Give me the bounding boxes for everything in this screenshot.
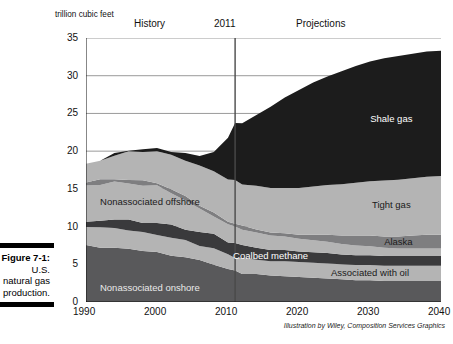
plot-area	[86, 38, 441, 302]
area-chart: trillion cubic feet History 2011 Project…	[0, 0, 453, 344]
y-tick-label-10: 10	[52, 221, 78, 232]
y-tick-label-30: 30	[52, 70, 78, 81]
y-tick-label-5: 5	[52, 258, 78, 269]
x-tick-label-1990: 1990	[73, 306, 95, 317]
y-axis-title: trillion cubic feet	[55, 10, 114, 19]
x-tick-label-2010: 2010	[215, 306, 237, 317]
annotation-history: History	[134, 18, 165, 29]
x-tick-label-2040: 2040	[428, 306, 450, 317]
y-tick-label-15: 15	[52, 183, 78, 194]
illustration-credit: Illustration by Wiley, Composition Servi…	[284, 322, 445, 329]
x-tick-label-2020: 2020	[286, 306, 308, 317]
y-tick-label-25: 25	[52, 107, 78, 118]
annotation-2011: 2011	[214, 18, 236, 29]
annotation-projections: Projections	[296, 18, 345, 29]
y-tick-label-35: 35	[52, 32, 78, 43]
y-tick-label-20: 20	[52, 145, 78, 156]
x-tick-label-2000: 2000	[144, 306, 166, 317]
figure-page: Figure 7-1: U.S. natural gas production.…	[0, 0, 453, 344]
x-tick-label-2030: 2030	[357, 306, 379, 317]
